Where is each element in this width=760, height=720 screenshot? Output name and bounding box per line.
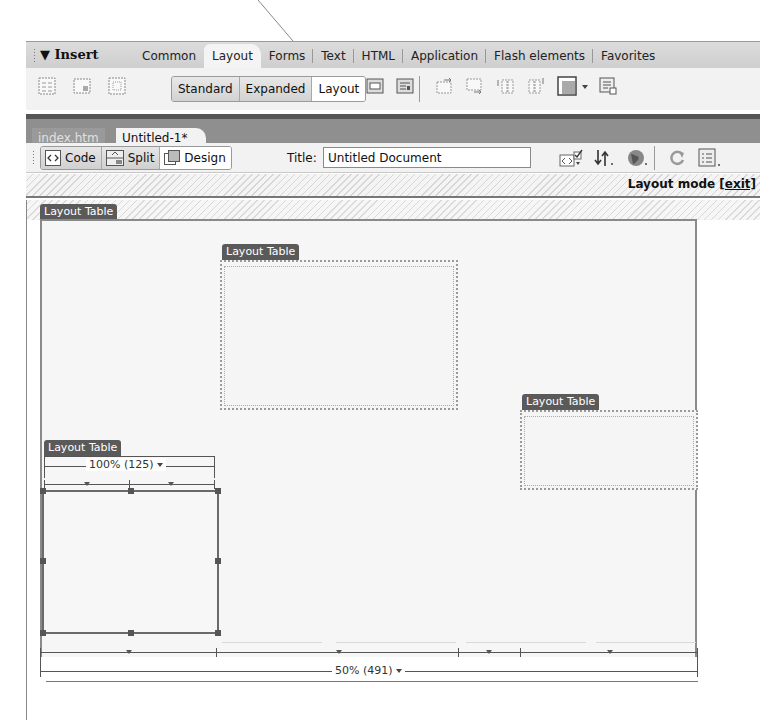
design-canvas[interactable]: Layout Table Layout Table Layout Table L… <box>26 200 760 720</box>
tab-favorites[interactable]: Favorites <box>593 46 663 66</box>
resize-handle[interactable] <box>215 630 221 636</box>
code-view-button[interactable]: Code <box>41 147 102 169</box>
layout-cell[interactable] <box>224 266 454 406</box>
layout-table-tag-bottom-left[interactable]: Layout Table <box>44 440 121 456</box>
insert-column-left-icon[interactable] <box>497 77 515 95</box>
layout-mode-indicator: Layout mode [exit] <box>628 177 756 191</box>
layout-mode-bar: Layout mode [exit] <box>26 174 760 198</box>
canvas-left-border <box>26 200 27 720</box>
tabular-data-icon[interactable] <box>599 77 617 95</box>
layout-table-tag-top-middle[interactable]: Layout Table <box>222 244 299 260</box>
toolbar-grip-handle[interactable] <box>32 150 36 166</box>
validate-markup-icon[interactable] <box>558 148 584 168</box>
column-dropdown-arrow-icon[interactable] <box>126 650 132 654</box>
width-bracket-right <box>697 657 698 677</box>
toolbar-separator <box>654 146 655 170</box>
column-dropdown-arrow-icon[interactable] <box>607 650 613 654</box>
ruler-tick <box>458 648 459 657</box>
tab-flash-elements[interactable]: Flash elements <box>486 46 593 66</box>
canvas-hatch-area <box>26 200 760 220</box>
design-view-icon <box>164 150 180 166</box>
insert-row-below-icon[interactable] <box>466 77 484 95</box>
frames-dropdown-arrow-icon[interactable] <box>581 77 589 95</box>
exit-layout-mode-link[interactable]: [exit] <box>719 177 756 191</box>
design-view-label: Design <box>184 147 225 169</box>
layout-table-icon[interactable] <box>366 77 384 95</box>
resize-handle[interactable] <box>40 630 46 636</box>
dropdown-arrow-icon <box>157 463 163 467</box>
view-options-icon[interactable] <box>698 148 722 168</box>
tab-common[interactable]: Common <box>134 46 204 66</box>
frames-icon[interactable] <box>557 76 577 96</box>
column-dropdown-arrow-icon[interactable] <box>336 650 342 654</box>
dropdown-arrow-icon <box>396 669 402 673</box>
ruler-tick <box>697 648 698 657</box>
standard-mode-button[interactable]: Standard <box>172 77 240 101</box>
tab-html[interactable]: HTML <box>354 46 403 66</box>
tab-forms[interactable]: Forms <box>261 46 313 66</box>
insert-column-right-icon[interactable] <box>527 77 545 95</box>
outer-width-value: 50% (491) <box>335 664 393 677</box>
insert-div-icon[interactable] <box>73 77 91 95</box>
toolbar-separator <box>419 76 420 102</box>
layout-table-top-middle[interactable] <box>220 260 458 410</box>
insert-panel: ▼ Insert Common Layout Forms Text HTML A… <box>26 41 760 109</box>
outer-table-width-label[interactable]: 50% (491) <box>332 664 405 677</box>
draw-layout-cell-icon[interactable] <box>396 77 414 95</box>
width-bracket-top <box>44 456 215 457</box>
column-guide <box>466 642 586 643</box>
resize-handle[interactable] <box>128 488 134 494</box>
document-title-label: Title: <box>287 151 317 165</box>
expanded-mode-button[interactable]: Expanded <box>240 77 313 101</box>
layout-table-tag-right[interactable]: Layout Table <box>522 394 599 410</box>
ruler-line <box>40 652 698 653</box>
insert-panel-title[interactable]: ▼ Insert <box>40 47 99 62</box>
document-title-input[interactable] <box>323 147 531 168</box>
panel-grip-handle[interactable] <box>33 48 37 62</box>
resize-handle[interactable] <box>128 630 134 636</box>
file-management-icon[interactable] <box>592 148 616 168</box>
resize-handle[interactable] <box>40 558 46 564</box>
column-guide <box>336 642 456 643</box>
table-icon[interactable] <box>38 77 56 95</box>
insert-row-above-icon[interactable] <box>436 77 454 95</box>
layout-mode-label: Layout mode <box>628 177 715 191</box>
code-view-label: Code <box>65 147 96 169</box>
preview-browser-icon[interactable] <box>626 148 650 168</box>
layout-mode-button[interactable]: Layout <box>312 77 365 101</box>
width-bracket-right <box>214 456 215 478</box>
document-window: index.htm Untitled-1* Code Split <box>26 114 760 720</box>
outer-table-bottom-line <box>46 681 698 682</box>
layout-cell[interactable] <box>524 416 694 486</box>
insert-toolbar: Standard Expanded Layout <box>26 68 760 110</box>
resize-handle[interactable] <box>215 558 221 564</box>
column-dropdown-arrow-icon[interactable] <box>168 482 174 486</box>
inner-width-value: 100% (125) <box>89 458 154 471</box>
split-view-label: Split <box>128 147 155 169</box>
split-view-button[interactable]: Split <box>102 147 161 169</box>
insert-panel-header: ▼ Insert Common Layout Forms Text HTML A… <box>26 42 760 68</box>
resize-handle[interactable] <box>40 488 46 494</box>
column-guide <box>596 642 696 643</box>
design-view-button[interactable]: Design <box>160 147 230 169</box>
column-guide <box>222 642 322 643</box>
view-mode-segmented-control: Code Split Design <box>40 146 232 170</box>
ruler-tick <box>40 648 41 657</box>
ruler-tick <box>216 648 217 657</box>
tab-layout[interactable]: Layout <box>204 44 261 68</box>
width-bracket-left <box>44 456 45 478</box>
refresh-icon[interactable] <box>668 148 688 168</box>
resize-handle[interactable] <box>215 488 221 494</box>
tab-application[interactable]: Application <box>403 46 486 66</box>
code-view-icon <box>45 150 61 166</box>
tab-text[interactable]: Text <box>313 46 353 66</box>
draw-ap-div-icon[interactable] <box>108 77 126 95</box>
column-dropdown-arrow-icon[interactable] <box>486 650 492 654</box>
selected-layout-cell[interactable] <box>42 490 219 634</box>
inner-table-width-label[interactable]: 100% (125) <box>86 458 166 471</box>
width-bracket-left <box>40 657 41 677</box>
layout-mode-segmented-control: Standard Expanded Layout <box>171 76 366 102</box>
layout-table-tag-outer[interactable]: Layout Table <box>40 204 117 220</box>
layout-table-right[interactable] <box>520 410 698 490</box>
column-dropdown-arrow-icon[interactable] <box>84 482 90 486</box>
